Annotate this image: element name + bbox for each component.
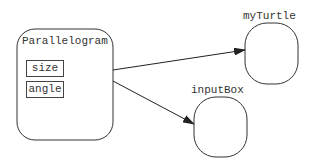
inputbox-label: inputBox — [191, 84, 244, 96]
myturtle-object-box — [245, 23, 298, 84]
arrow-to-myturtle — [113, 50, 245, 70]
inputbox-object-box — [194, 97, 247, 157]
myturtle-label: myTurtle — [243, 10, 296, 22]
size-field: size — [26, 60, 64, 77]
arrow-to-inputbox — [113, 81, 194, 124]
parallelogram-label: Parallelogram — [22, 35, 108, 47]
angle-field: angle — [26, 81, 64, 98]
